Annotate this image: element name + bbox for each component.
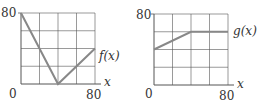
g-origin-label: 0 bbox=[145, 88, 153, 100]
f-origin-label: 0 bbox=[9, 88, 17, 100]
f-xmax-label: 80 bbox=[86, 89, 101, 101]
g-xaxis-label: x bbox=[237, 78, 244, 90]
g-xmax-label: 80 bbox=[219, 90, 234, 102]
g-grid bbox=[151, 14, 234, 85]
g-ymax-label: 80 bbox=[136, 9, 151, 21]
f-grid bbox=[18, 13, 101, 84]
f-ymax-label: 80 bbox=[1, 7, 16, 19]
f-xaxis-label: x bbox=[104, 76, 111, 88]
g-annotation: g(x) bbox=[233, 25, 257, 37]
f-annotation: f(x) bbox=[99, 50, 120, 62]
